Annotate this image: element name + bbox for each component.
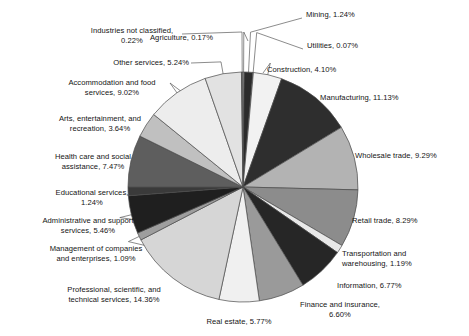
pie-label-wholesale-trade: Wholesale trade, 9.29%	[355, 151, 465, 161]
pie-label-accommodation: Accommodation and food services, 9.02%	[46, 78, 178, 97]
pie-slices-group	[128, 72, 358, 302]
pie-label-other-services: Other services, 5.24%	[93, 58, 189, 68]
pie-label-manufacturing: Manufacturing, 11.13%	[320, 93, 430, 103]
pie-label-administrative: Administrative and support services, 5.4…	[12, 216, 164, 235]
pie-label-utilities: Utilities, 0.07%	[307, 41, 397, 51]
pie-chart-figure: Agriculture, 0.17%Mining, 1.24%Utilities…	[0, 0, 469, 336]
leader-line-other-services	[191, 62, 223, 74]
pie-label-health-care: Health care and social assistance, 7.47%	[28, 152, 158, 171]
pie-label-retail-trade: Retail trade, 8.29%	[352, 216, 452, 226]
pie-label-educational: Educational services, 1.24%	[26, 188, 158, 207]
pie-label-management: Management of companies and enterprises,…	[21, 244, 171, 263]
pie-label-transportation: Transportation and warehousing, 1.19%	[342, 249, 446, 268]
pie-label-professional: Professional, scientific, and technical …	[46, 285, 182, 304]
pie-label-real-estate: Real estate, 5.77%	[187, 317, 291, 327]
pie-label-mining: Mining, 1.24%	[306, 10, 396, 20]
pie-label-finance: Finance and insurance, 6.60%	[287, 300, 393, 319]
pie-label-construction: Construction, 4.10%	[267, 65, 359, 75]
pie-label-arts: Arts, entertainment, and recreation, 3.6…	[36, 114, 164, 133]
pie-label-industries-nc: Industries not classified, 0.22%	[76, 26, 188, 45]
pie-label-information: Information, 6.77%	[337, 281, 437, 291]
